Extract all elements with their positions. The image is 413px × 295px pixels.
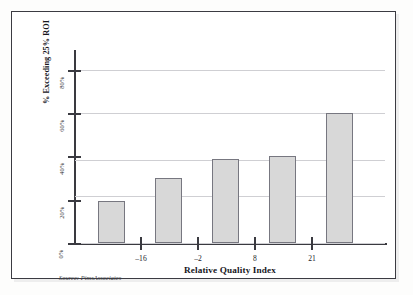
y-tick-label-40: 40% <box>58 163 65 175</box>
x-tick-label-1: –16 <box>135 254 146 263</box>
bar-2[interactable] <box>155 178 182 243</box>
y-tick-label-20: 20% <box>58 207 65 219</box>
figure-canvas: % Exceeding 25% ROI 0% 20% 40% <box>0 0 413 295</box>
y-tick-label-0-wrap: 0% <box>66 246 67 247</box>
gridline-0 <box>75 243 385 244</box>
x-tick-2 <box>197 237 199 250</box>
bar-4[interactable] <box>269 156 296 243</box>
y-tick-label-60-wrap: 60% <box>66 116 67 117</box>
y-axis-line <box>74 50 76 243</box>
x-tick-4 <box>311 237 313 250</box>
y-tick-label-40-wrap: 40% <box>66 159 67 160</box>
y-tick-80 <box>68 70 81 72</box>
x-tick-3 <box>254 237 256 250</box>
x-tick-label-2: –2 <box>194 254 202 263</box>
y-tick-label-20-wrap: 20% <box>66 203 67 204</box>
bar-1[interactable] <box>98 201 125 243</box>
x-axis-title: Relative Quality Index <box>75 265 385 275</box>
y-tick-label-0: 0% <box>58 250 65 259</box>
y-tick-20 <box>68 200 81 202</box>
bar-3[interactable] <box>212 159 239 243</box>
y-tick-label-60: 60% <box>58 120 65 132</box>
y-axis-title: % Exceeding 25% ROI <box>42 20 51 104</box>
x-tick-1 <box>140 237 142 250</box>
y-tick-60 <box>68 113 81 115</box>
bar-5[interactable] <box>326 113 353 243</box>
y-tick-label-80-wrap: 80% <box>66 73 67 74</box>
x-tick-label-4: 21 <box>308 254 316 263</box>
y-tick-label-80: 80% <box>58 77 65 89</box>
gridline-80 <box>75 70 385 71</box>
plot-area: 0% 20% 40% 60% 80% <box>75 56 385 243</box>
y-tick-0 <box>68 243 81 245</box>
x-tick-label-3: 8 <box>253 254 257 263</box>
y-tick-40 <box>68 156 81 158</box>
source-note: Source: PimsAssociates <box>59 274 121 281</box>
chart-frame: % Exceeding 25% ROI 0% 20% 40% <box>11 11 396 279</box>
